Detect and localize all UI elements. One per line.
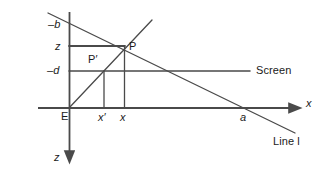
label-point-p-prime: P′ — [88, 54, 98, 65]
label-z-level: z — [55, 41, 61, 52]
diagram-canvas: –b z –d P P′ Screen E x′ x a x Line l z — [0, 0, 323, 177]
label-origin-e: E — [61, 111, 68, 122]
label-screen: Screen — [256, 65, 291, 76]
label-neg-b: –b — [48, 19, 60, 30]
label-x-axis: x — [306, 98, 312, 109]
label-a-value: a — [240, 112, 246, 123]
label-z-axis: z — [54, 152, 60, 163]
label-x-prime: x′ — [98, 112, 106, 123]
label-point-p: P — [129, 41, 136, 52]
projection-ray-stroke — [69, 20, 152, 108]
label-line-l: Line l — [273, 136, 300, 147]
label-neg-d: –d — [47, 65, 59, 76]
label-x-value: x — [120, 112, 126, 123]
